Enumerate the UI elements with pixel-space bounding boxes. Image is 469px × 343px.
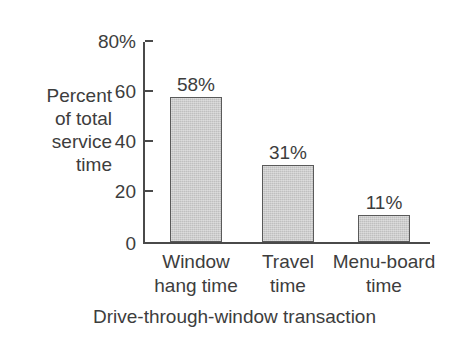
y-tick-1: 20 (145, 190, 153, 192)
y-tick-label-4: 80% (98, 32, 136, 51)
y-axis-title: Percent of total service time (8, 84, 112, 176)
bar-value-label-0: 58% (177, 75, 215, 95)
bar-menu-board-time[interactable]: 11% (358, 215, 410, 243)
x-axis-title: Drive-through-window transaction (0, 306, 469, 328)
x-axis-line (143, 242, 430, 244)
bar-chart-figure: Percent of total service time 80% 60 40 … (0, 0, 469, 343)
plot-area: 80% 60 40 20 0 58% 31% 11% (143, 42, 430, 244)
y-tick-3: 60 (145, 90, 153, 92)
y-tick-label-1: 20 (115, 182, 136, 201)
y-tick-2: 40 (145, 140, 153, 142)
bar-window-hang-time[interactable]: 58% (170, 97, 222, 242)
bar-value-label-1: 31% (269, 143, 307, 163)
bar-value-label-2: 11% (366, 193, 403, 213)
y-tick-label-3: 60 (115, 82, 136, 101)
y-tick-4: 80% (145, 40, 153, 42)
category-label-2: Menu-board time (319, 250, 449, 298)
bar-travel-time[interactable]: 31% (262, 165, 314, 243)
y-tick-label-2: 40 (115, 132, 136, 151)
y-axis-line (143, 42, 145, 244)
